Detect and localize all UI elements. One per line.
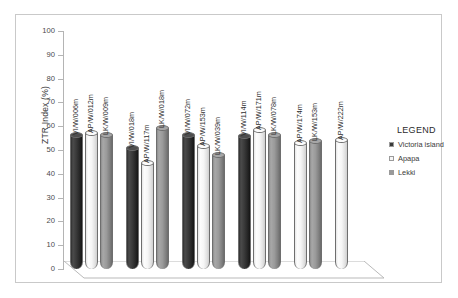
bar-label: AP/W/174m	[295, 105, 304, 144]
y-axis-tick-label: 30	[22, 194, 55, 202]
bar-label: LK/W/078m	[269, 97, 278, 135]
bar-body	[70, 135, 83, 269]
bar-label: AP/W/171m	[254, 91, 263, 130]
bar-label: LK/W/153m	[310, 103, 319, 141]
legend-swatch-icon	[389, 142, 394, 147]
legend-item-label: Lekki	[398, 168, 415, 177]
bar-label: VI/W/072m	[183, 99, 192, 135]
bar[interactable]	[335, 137, 348, 269]
legend: LEGEND Victoria islandApapaLekki	[389, 125, 458, 182]
plot-area: VI/W/006mAP/W/012mLK/W/009mVI/W/018mAP/W…	[64, 31, 384, 269]
bar-label: AP/W/117m	[142, 124, 151, 162]
y-axis-tick-label: 80	[22, 75, 55, 83]
bar-body	[238, 136, 251, 269]
bar[interactable]	[268, 132, 281, 269]
y-axis-tick-label: 10	[22, 241, 55, 249]
bar-label: LK/W/039m	[213, 117, 222, 155]
bar-body	[156, 128, 169, 269]
y-axis-tick-label: 40	[22, 170, 55, 178]
legend-item[interactable]: Victoria island	[389, 140, 458, 149]
bar-body	[182, 135, 195, 269]
legend-item-label: Victoria island	[398, 140, 444, 149]
bar-label: LK/W/009m	[101, 97, 110, 135]
bar[interactable]	[309, 138, 322, 269]
y-axis-tick-label: 50	[22, 146, 55, 154]
bar-label: LK/W/018m	[157, 90, 166, 128]
bar[interactable]	[141, 160, 154, 269]
y-axis-tick-label: 60	[22, 122, 55, 130]
bar[interactable]	[182, 132, 195, 269]
bar-body	[197, 146, 210, 269]
legend-item[interactable]: Lekki	[389, 168, 458, 177]
bar[interactable]	[70, 132, 83, 269]
bar[interactable]	[294, 140, 307, 269]
legend-item[interactable]: Apapa	[389, 154, 458, 163]
bar[interactable]	[212, 152, 225, 269]
legend-swatch-icon	[389, 156, 394, 161]
y-axis-tick-label: 0	[22, 265, 55, 273]
bar-body	[253, 130, 266, 269]
bar-body	[85, 133, 98, 269]
bar-body	[212, 155, 225, 269]
bar[interactable]	[100, 132, 113, 269]
bar[interactable]	[156, 125, 169, 269]
bar-label: VI/W/114m	[239, 101, 248, 137]
bar-body	[309, 141, 322, 269]
bar[interactable]	[253, 127, 266, 269]
y-axis-tick-label: 90	[22, 51, 55, 59]
bar-body	[335, 140, 348, 269]
bar-body	[126, 148, 139, 269]
bar[interactable]	[126, 145, 139, 269]
bar-body	[294, 143, 307, 269]
y-axis-tick-label: 20	[22, 217, 55, 225]
legend-item-label: Apapa	[398, 154, 419, 163]
bar-label: VI/W/006m	[71, 99, 80, 135]
bar-body	[141, 163, 154, 269]
legend-title: LEGEND	[397, 125, 458, 135]
bar-body	[100, 135, 113, 269]
legend-swatch-icon	[389, 170, 394, 175]
y-axis-tick-label: 70	[22, 98, 55, 106]
bar-label: AP/W/153m	[198, 107, 207, 146]
bar-label: VI/W/018m	[127, 112, 136, 148]
bar-label: AP/W/222m	[336, 101, 345, 140]
bar[interactable]	[197, 143, 210, 269]
bar[interactable]	[85, 130, 98, 269]
bar-label: AP/W/012m	[86, 94, 95, 133]
bar-body	[268, 135, 281, 269]
legend-items: Victoria islandApapaLekki	[389, 140, 458, 177]
bar[interactable]	[238, 133, 251, 269]
chart-frame: ZTR Index (%) 1009080706050403020100 VI/…	[15, 14, 442, 283]
y-axis-tick-label: 100	[22, 27, 55, 35]
